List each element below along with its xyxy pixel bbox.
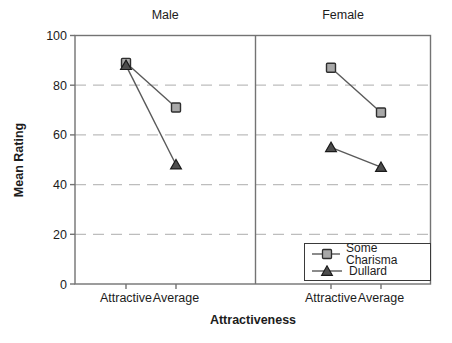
y-axis-label: Mean Rating [12, 123, 26, 197]
legend-item-dullard: Dullard [311, 263, 424, 278]
chart-canvas: 020406080100MaleAttractiveAverageFemaleA… [0, 0, 452, 343]
series-line-female-dullard [331, 147, 381, 167]
legend-triangle-marker-icon [311, 265, 343, 277]
point-female-some-charisma-average [377, 108, 386, 117]
point-female-dullard-attractive [326, 142, 337, 151]
y-tick-label-40: 40 [53, 178, 67, 192]
interaction-line-chart-figure: 020406080100MaleAttractiveAverageFemaleA… [0, 0, 452, 343]
facet-title-female: Female [322, 8, 364, 22]
legend-label-some-charisma: Some Charisma [346, 242, 424, 266]
y-tick-label-60: 60 [53, 128, 67, 142]
x-tick-label-male-average: Average [153, 291, 199, 305]
legend-square-marker-icon [311, 248, 340, 260]
y-tick-label-80: 80 [53, 79, 67, 93]
series-line-female-some-charisma [331, 68, 381, 113]
legend-label-dullard: Dullard [349, 265, 387, 277]
y-tick-label-20: 20 [53, 228, 67, 242]
y-tick-label-0: 0 [60, 278, 67, 292]
series-line-male-dullard [126, 65, 176, 164]
legend: Some Charisma Dullard [304, 243, 431, 281]
point-male-dullard-average [171, 160, 182, 169]
point-female-some-charisma-attractive [327, 63, 336, 72]
x-tick-label-male-attractive: Attractive [100, 291, 152, 305]
legend-item-some-charisma: Some Charisma [311, 246, 424, 261]
x-tick-label-female-average: Average [358, 291, 404, 305]
point-female-dullard-average [376, 162, 387, 171]
facet-title-male: Male [152, 8, 179, 22]
y-tick-label-100: 100 [46, 29, 67, 43]
x-tick-label-female-attractive: Attractive [305, 291, 357, 305]
point-male-some-charisma-average [172, 103, 181, 112]
x-axis-label: Attractiveness [210, 313, 296, 327]
